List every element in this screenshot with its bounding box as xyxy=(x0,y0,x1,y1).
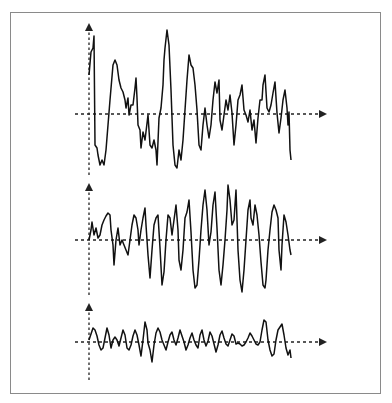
waveform-panel-middle xyxy=(75,185,325,295)
signal-trace xyxy=(89,320,291,362)
waveform-panel-top xyxy=(75,25,325,175)
signal-trace xyxy=(89,185,291,292)
signal-trace xyxy=(89,30,291,168)
waveform-diagram xyxy=(0,0,392,403)
waveform-panel-bottom xyxy=(75,305,325,380)
